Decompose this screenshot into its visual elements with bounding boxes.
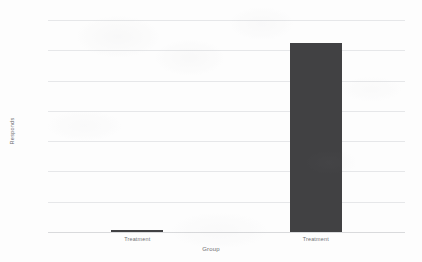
- gridline: [48, 171, 405, 172]
- plot-area: [48, 20, 405, 232]
- gridline: [48, 141, 405, 142]
- gridline: [48, 20, 405, 21]
- y-axis-title: Responds: [9, 118, 15, 145]
- bar[interactable]: [290, 43, 342, 232]
- bar-chart: 0200400600800100012001400 Responds Group…: [0, 0, 422, 262]
- x-axis-tick-label: Treatment: [303, 236, 329, 242]
- gridline: [48, 202, 405, 203]
- gridline: [48, 111, 405, 112]
- x-axis-tick-label: Treatment: [124, 236, 150, 242]
- gridline: [48, 81, 405, 82]
- x-axis-title: Group: [0, 246, 422, 252]
- gridline: [48, 232, 405, 233]
- gridline: [48, 50, 405, 51]
- bar[interactable]: [111, 230, 163, 232]
